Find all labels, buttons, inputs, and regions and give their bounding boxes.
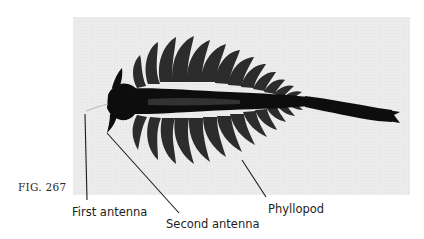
figure-number: FIG. 267 xyxy=(18,181,67,193)
label-phyllopod: Phyllopod xyxy=(268,202,324,216)
label-first-antenna: First antenna xyxy=(72,205,147,219)
figure-267: FIG. 267 First antenna Second antenna Ph… xyxy=(0,0,424,239)
label-second-antenna: Second antenna xyxy=(166,217,260,231)
specimen-photo xyxy=(73,17,410,195)
